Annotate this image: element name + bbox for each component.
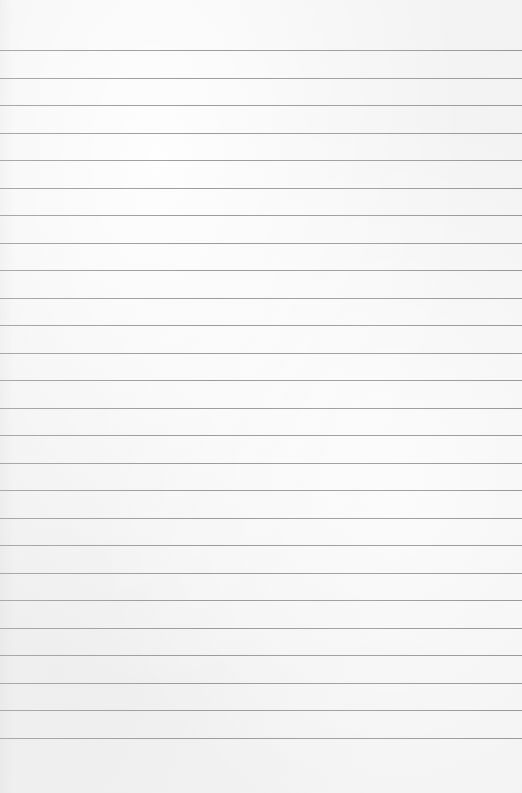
ruled-line [0, 353, 522, 354]
ruled-line [0, 710, 522, 711]
ruled-line [0, 435, 522, 436]
ruled-line [0, 215, 522, 216]
ruled-line [0, 298, 522, 299]
ruled-line [0, 325, 522, 326]
ruled-line [0, 573, 522, 574]
ruled-line [0, 463, 522, 464]
ruled-line [0, 380, 522, 381]
ruled-line [0, 270, 522, 271]
ruled-line [0, 683, 522, 684]
ruled-line [0, 105, 522, 106]
ruled-line [0, 545, 522, 546]
ruled-line [0, 188, 522, 189]
ruled-line [0, 490, 522, 491]
ruled-line [0, 78, 522, 79]
ruled-line [0, 628, 522, 629]
ruled-line [0, 243, 522, 244]
ruled-line [0, 133, 522, 134]
ruled-line [0, 655, 522, 656]
lined-paper-sheet [0, 0, 522, 793]
ruled-line [0, 50, 522, 51]
ruled-line [0, 160, 522, 161]
ruled-line [0, 738, 522, 739]
ruled-line [0, 600, 522, 601]
ruled-line [0, 518, 522, 519]
ruled-line [0, 408, 522, 409]
